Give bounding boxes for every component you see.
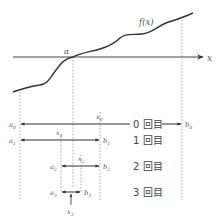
- iteration-2: a2 b2 x2 2 回目: [50, 155, 163, 172]
- a1-label: a1: [9, 137, 16, 146]
- b2-label: b2: [103, 163, 110, 172]
- iteration-3: a3 b3 x3 3 回目: [50, 187, 163, 217]
- a0-label: a0: [9, 121, 16, 130]
- b3-label: b3: [84, 189, 91, 198]
- a2-label: a2: [50, 163, 57, 172]
- function-curve: [13, 13, 193, 92]
- root-label: α: [64, 47, 69, 56]
- curve-label: f(x): [138, 17, 154, 27]
- x3-label: x3: [67, 208, 74, 217]
- guide-lines: [20, 20, 182, 200]
- iteration-0: a0 b0 x0 0 回目: [9, 113, 192, 130]
- b0-label: b0: [185, 121, 192, 130]
- a3-label: a3: [50, 189, 57, 198]
- x2-label: x2: [78, 155, 85, 164]
- iteration-1-label: 1 回目: [133, 135, 163, 146]
- iteration-3-label: 3 回目: [133, 187, 163, 198]
- iteration-0-label: 0 回目: [133, 119, 163, 130]
- x-axis-label: x: [207, 53, 212, 63]
- b1-label: b1: [103, 137, 110, 146]
- iteration-1: a1 b1 x1 1 回目: [9, 129, 163, 146]
- bisection-diagram: x f(x) α a0 b0 x0 0 回目 a1 b1 x1 1 回目 a2 …: [0, 0, 224, 224]
- x1-label: x1: [56, 129, 63, 138]
- x0-label: x0: [96, 113, 103, 122]
- iteration-2-label: 2 回目: [133, 161, 163, 172]
